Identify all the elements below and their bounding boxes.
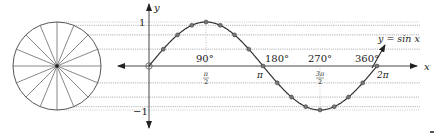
pi-half-numerator: π (203, 70, 209, 78)
sine-projection-diagram: y x 1 −1 90° 180° 270° 360° π 2 π 3π 2 2… (0, 0, 435, 136)
sample-point (247, 47, 251, 51)
sample-point (233, 33, 237, 37)
sample-point (275, 81, 279, 85)
sample-point (304, 105, 308, 109)
sample-point (218, 23, 222, 27)
x-axis-label: x (424, 61, 430, 72)
pi-half-denominator: 2 (204, 78, 208, 86)
tick-three-pi-half-fraction: 3π 2 (316, 70, 325, 86)
sample-point (318, 108, 322, 112)
tick-two-pi-radian: 2π (376, 70, 390, 80)
tick-90-deg: 90° (196, 53, 214, 64)
three-pi-half-numerator: 3π (316, 70, 325, 78)
sample-point (375, 64, 379, 68)
sample-point (161, 47, 165, 51)
three-pi-half-denominator: 2 (318, 78, 322, 86)
circle-center-point (55, 64, 59, 68)
sample-point (190, 23, 194, 27)
tick-360-deg: 360° (355, 53, 379, 64)
y-axis-label: y (153, 2, 160, 13)
sample-point (361, 81, 365, 85)
sample-point (290, 95, 294, 99)
sample-point (261, 64, 265, 68)
unit-circle (13, 22, 101, 110)
sample-point (347, 95, 351, 99)
sample-point (332, 105, 336, 109)
tick-pi-radian: π (256, 70, 264, 80)
y-tick-neg1: −1 (133, 106, 148, 117)
tick-180-deg: 180° (265, 53, 289, 64)
y-tick-1: 1 (139, 17, 145, 28)
sample-point (204, 20, 208, 24)
axes (118, 4, 417, 128)
tick-pi-half-fraction: π 2 (203, 70, 209, 86)
equation-label: y = sin x (377, 33, 420, 44)
tick-270-deg: 270° (308, 53, 332, 64)
corner-mark (430, 131, 434, 133)
sample-point (176, 33, 180, 37)
